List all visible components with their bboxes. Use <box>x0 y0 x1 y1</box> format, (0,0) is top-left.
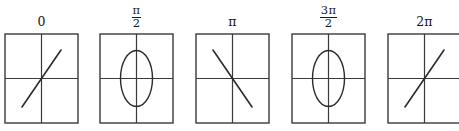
phase-panel-3pi-over-2: 3π 2 <box>291 0 366 131</box>
phase-panel-pi-over-2: π 2 <box>99 0 174 131</box>
phase-label-text: 0 <box>37 16 45 32</box>
phase-panel-0: 0 <box>4 0 79 131</box>
phase-label-text: 2π <box>416 16 433 32</box>
fraction-numerator: 3π <box>320 5 337 17</box>
phase-plot-3pi-over-2 <box>291 33 366 124</box>
phase-panel-pi: π <box>195 0 270 131</box>
phase-plot-2pi <box>387 33 459 124</box>
phase-label-text: π <box>228 16 236 32</box>
fraction-denominator: 2 <box>320 18 337 30</box>
phase-plot-pi <box>195 33 270 124</box>
phase-plot-pi-over-2 <box>99 33 174 124</box>
phase-label-0: 0 <box>4 0 79 31</box>
phase-panel-2pi: 2π <box>387 0 459 131</box>
fraction-denominator: 2 <box>132 18 142 30</box>
fraction-numerator: π <box>132 5 142 17</box>
phase-plot-0 <box>4 33 79 124</box>
phase-label-pi: π <box>195 0 270 31</box>
phase-label-2pi: 2π <box>387 0 459 31</box>
phase-label-pi-over-2: π 2 <box>99 0 174 31</box>
phase-figure-diagram: 0 π 2 π <box>0 0 459 131</box>
phase-label-3pi-over-2: 3π 2 <box>291 0 366 31</box>
fraction-label: π 2 <box>132 5 142 31</box>
fraction-label: 3π 2 <box>320 5 337 31</box>
